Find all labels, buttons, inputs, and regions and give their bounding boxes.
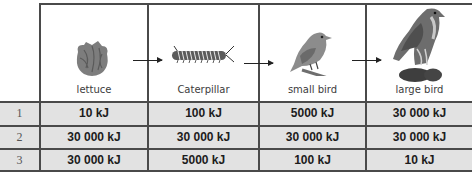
caterpillar-icon — [168, 42, 236, 66]
table-cell-lettuce: 30 000 kJ — [41, 126, 147, 149]
row-number: 2 — [0, 126, 39, 149]
row-number: 3 — [0, 149, 39, 172]
column-header-large-bird: large bird — [367, 84, 472, 95]
table-cell-lettuce: 10 kJ — [41, 102, 147, 125]
table-cell-caterpillar: 5000 kJ — [149, 149, 258, 172]
arrow-small-bird-to-large-bird — [352, 60, 381, 61]
column-header-caterpillar: Caterpillar — [149, 84, 258, 95]
table-cell-large-bird: 10 kJ — [367, 149, 472, 172]
column-header-small-bird: small bird — [260, 84, 365, 95]
column-header-lettuce: lettuce — [41, 84, 147, 95]
table-cell-small-bird: 5000 kJ — [260, 102, 365, 125]
arrow-lettuce-to-caterpillar — [133, 60, 162, 61]
table-cell-large-bird: 30 000 kJ — [367, 102, 472, 125]
table-cell-caterpillar: 100 kJ — [149, 102, 258, 125]
table-cell-large-bird: 30 000 kJ — [367, 126, 472, 149]
row-number: 1 — [0, 102, 39, 125]
table-cell-caterpillar: 30 000 kJ — [149, 126, 258, 149]
table-cell-small-bird: 100 kJ — [260, 149, 365, 172]
table-cell-small-bird: 30 000 kJ — [260, 126, 365, 149]
small-bird-icon — [284, 26, 336, 76]
table-cell-lettuce: 30 000 kJ — [41, 149, 147, 172]
large-bird-icon — [387, 5, 449, 83]
arrow-caterpillar-to-small-bird — [244, 63, 273, 64]
lettuce-icon — [72, 38, 112, 78]
